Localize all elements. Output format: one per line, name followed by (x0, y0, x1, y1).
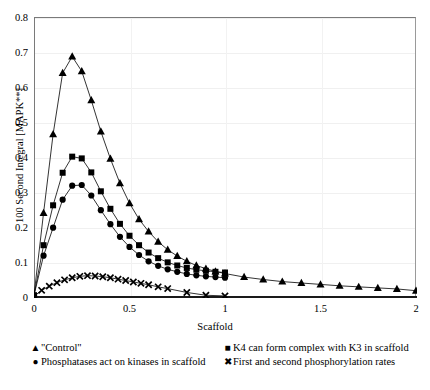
data-point-marker (116, 179, 124, 186)
data-point-marker (174, 263, 180, 269)
data-point-marker (126, 199, 134, 206)
data-point-marker (79, 155, 85, 161)
data-point-marker (212, 269, 218, 275)
data-point-marker (87, 96, 95, 103)
x-axis-title: Scaffold (0, 321, 430, 332)
data-point-marker (59, 69, 67, 76)
data-point-marker (54, 280, 60, 286)
x-tick-label: 2 (396, 303, 430, 314)
data-point-marker (78, 67, 86, 74)
legend-marker-icon: ● (30, 355, 41, 368)
data-point-marker (68, 52, 76, 59)
data-point-marker (136, 252, 142, 258)
legend-label: First and second phosphorylation rates (233, 356, 395, 367)
data-point-marker (106, 155, 114, 162)
data-point-marker (135, 215, 143, 222)
data-point-marker (165, 259, 171, 265)
data-point-marker (374, 284, 382, 291)
data-point-marker (107, 206, 113, 212)
data-point-marker (146, 258, 152, 264)
data-point-marker (40, 253, 46, 259)
x-tick-label: 0.5 (110, 303, 150, 314)
data-point-marker (203, 273, 209, 279)
legend-marker-icon: ■ (222, 341, 233, 354)
data-point-marker (97, 127, 105, 134)
data-point-marker (50, 202, 56, 208)
legend-item: ▲"Control" (30, 340, 82, 354)
y-tick-label: 0.8 (0, 12, 28, 23)
data-point-marker (107, 221, 113, 227)
y-tick-label: 0 (0, 292, 28, 303)
data-point-marker (39, 287, 45, 293)
data-point-marker (355, 283, 363, 290)
data-point-marker (393, 285, 401, 292)
data-point-marker (88, 192, 94, 198)
data-point-marker (41, 242, 47, 248)
legend-label: Phosphatases act on kinases in scaffold (41, 356, 206, 367)
legend-item: ✖First and second phosphorylation rates (222, 354, 395, 368)
data-point-marker (193, 272, 199, 278)
data-point-marker (155, 263, 161, 269)
data-point-marker (79, 182, 85, 188)
data-point-marker (117, 234, 123, 240)
data-point-marker (49, 130, 57, 137)
data-point-marker (222, 293, 228, 298)
chart-plot-svg (34, 17, 417, 298)
data-point-marker (98, 207, 104, 213)
data-point-marker (60, 197, 66, 203)
data-point-marker (222, 270, 228, 276)
data-point-marker (60, 170, 66, 176)
data-point-marker (40, 209, 48, 216)
data-point-marker (146, 250, 152, 256)
data-point-marker (155, 255, 161, 261)
legend-item: ■K4 can form complex with K3 in scaffold (222, 340, 409, 354)
y-axis-title: 100 Second Integral [MAPK**] (14, 51, 25, 261)
data-point-marker (136, 242, 142, 248)
x-tick-label: 1.5 (301, 303, 341, 314)
data-point-marker (46, 283, 52, 289)
x-tick-label: 1 (205, 303, 245, 314)
legend-label: K4 can form complex with K3 in scaffold (233, 342, 409, 353)
chart-figure: 00.10.20.30.40.50.60.70.8 00.511.52 100 … (0, 0, 430, 390)
legend-item: ●Phosphatases act on kinases in scaffold (30, 354, 206, 368)
series-line (34, 57, 416, 296)
data-point-marker (88, 169, 94, 175)
legend-marker-icon: ✖ (222, 355, 233, 368)
data-point-marker (222, 275, 228, 281)
data-point-marker (61, 277, 67, 283)
data-point-marker (98, 188, 104, 194)
data-point-marker (69, 154, 75, 160)
legend-label: "Control" (41, 342, 82, 353)
data-point-marker (203, 268, 209, 274)
data-point-marker (173, 252, 181, 259)
data-point-marker (127, 233, 133, 239)
data-point-marker (50, 225, 56, 231)
legend-marker-icon: ▲ (30, 341, 41, 354)
data-point-marker (184, 271, 190, 277)
data-point-marker (174, 269, 180, 275)
data-point-marker (183, 257, 191, 264)
data-point-marker (69, 183, 75, 189)
data-point-marker (165, 266, 171, 272)
data-point-marker (164, 246, 172, 253)
x-tick-label: 0 (14, 303, 54, 314)
data-point-marker (193, 267, 199, 273)
chart-legend: ▲"Control"●Phosphatases act on kinases i… (0, 340, 430, 372)
data-point-marker (126, 244, 132, 250)
data-point-marker (184, 265, 190, 271)
data-point-marker (212, 274, 218, 280)
data-point-marker (117, 221, 123, 227)
